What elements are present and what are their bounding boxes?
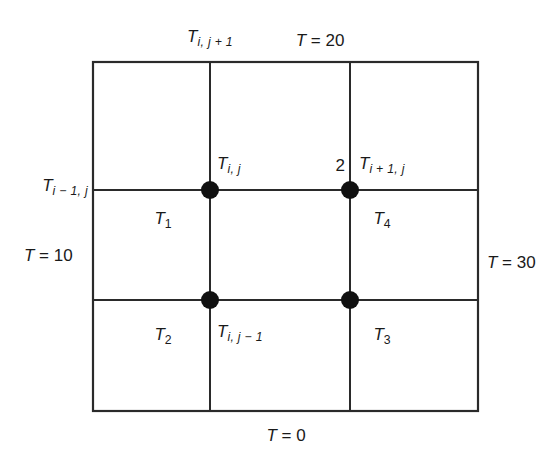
stencil-label-east: Ti + 1, j [359,155,405,172]
stencil-center-subscript: i, j [227,161,240,175]
stencil-east-subscript: i + 1, j [369,161,404,175]
node-count-annotation: 2 [336,157,345,174]
grid-svg [0,0,548,453]
boundary-bottom-value: 0 [296,426,305,445]
stencil-center-symbol: T [217,154,227,173]
boundary-label-right: T = 30 [487,254,536,271]
region-t2-symbol: T [154,325,164,344]
stencil-east-symbol: T [359,154,369,173]
stencil-south-subscript: i, j − 1 [227,329,262,343]
region-t1-subscript: 1 [165,216,172,230]
stencil-north-subscript: i, j + 1 [198,34,233,48]
region-label-t1: T1 [154,210,171,227]
node-center [201,181,219,199]
region-t3-subscript: 3 [384,332,391,346]
region-t4-symbol: T [373,209,383,228]
region-t4-subscript: 4 [384,216,391,230]
stencil-label-north: Ti, j + 1 [187,28,233,45]
boundary-left-value: 10 [54,246,73,265]
node-count-value: 2 [336,156,345,175]
boundary-label-bottom: T = 0 [266,427,305,444]
stencil-label-center: Ti, j [217,155,241,172]
boundary-top-value: 20 [325,31,344,50]
region-t1-symbol: T [154,209,164,228]
node-east [341,181,359,199]
boundary-label-top: T = 20 [296,32,345,49]
node-south [201,291,219,309]
region-t2-subscript: 2 [165,332,172,346]
boundary-label-left: T = 10 [24,247,73,264]
stencil-west-subscript: i − 1, j [53,183,88,197]
stencil-label-south: Ti, j − 1 [217,323,263,340]
boundary-right-value: 30 [517,253,536,272]
stencil-label-west: Ti − 1, j [42,177,88,194]
stencil-west-symbol: T [42,176,52,195]
region-label-t2: T2 [154,326,171,343]
domain-boundary-rect [93,62,478,411]
region-t3-symbol: T [373,325,383,344]
stencil-north-symbol: T [187,27,197,46]
finite-difference-grid-figure: T = 20 T = 30 T = 0 T = 10 Ti, j + 1 Ti … [0,0,548,453]
node-southeast [341,291,359,309]
region-label-t3: T3 [373,326,390,343]
region-label-t4: T4 [373,210,390,227]
stencil-south-symbol: T [217,322,227,341]
